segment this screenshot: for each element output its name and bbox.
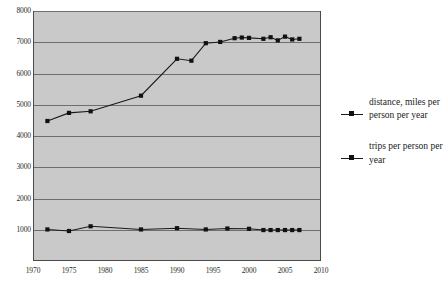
line-chart-figure: 10002000300040005000600070008000 1970197…: [0, 0, 444, 292]
chart-legend: distance, miles per person per year trip…: [341, 96, 444, 185]
legend-key-trips-icon: [341, 154, 363, 163]
legend-entry-trips: trips per person per year: [341, 140, 444, 166]
x-tick-label: 1970: [13, 266, 53, 275]
x-tick-label: 1980: [85, 266, 125, 275]
legend-entry-distance: distance, miles per person per year: [341, 96, 444, 122]
x-tick-label: 2005: [265, 266, 305, 275]
legend-label-trips: trips per person per year: [369, 140, 444, 166]
x-tick-label: 1975: [49, 266, 89, 275]
x-tick-label: 1995: [193, 266, 233, 275]
x-tick-label: 1985: [121, 266, 161, 275]
x-tick-label: 1990: [157, 266, 197, 275]
legend-key-distance-icon: [341, 110, 363, 119]
caption-strip: [0, 281, 444, 292]
legend-label-distance: distance, miles per person per year: [369, 96, 444, 122]
x-tick-label: 2010: [301, 266, 341, 275]
x-tick-label: 2000: [229, 266, 269, 275]
